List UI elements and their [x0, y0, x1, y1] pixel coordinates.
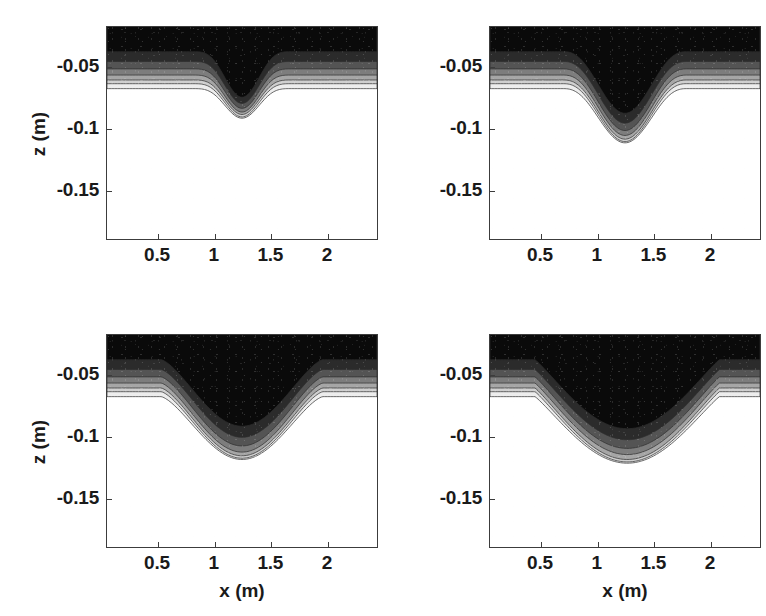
x-tick-2 — [328, 234, 329, 239]
x-tick-0.5 — [158, 234, 159, 239]
x-tick-label: 2 — [322, 552, 332, 574]
x-tick-label: 1.5 — [257, 552, 283, 574]
y-tick-label: -0.05 — [440, 363, 482, 385]
x-tick-1 — [598, 542, 599, 547]
x-tick-label: 0.5 — [527, 552, 553, 574]
panel-bottom-left: 0.511.52-0.05-0.1-0.15x (m)z (m) — [0, 308, 383, 616]
y-tick--0.1 — [490, 437, 495, 438]
panel-top-left: 0.511.52-0.05-0.1-0.15z (m) — [0, 0, 383, 308]
y-tick-label: -0.15 — [440, 179, 482, 201]
x-tick-label: 1.5 — [257, 244, 283, 266]
contour-plot-top-left — [107, 27, 377, 239]
x-tick-label: 2 — [705, 244, 715, 266]
plot-area-top-right — [490, 27, 760, 239]
x-tick-1.5 — [654, 234, 655, 239]
x-tick-label: 1.5 — [640, 244, 666, 266]
y-tick-label: -0.15 — [440, 487, 482, 509]
y-tick--0.15 — [490, 499, 495, 500]
x-tick-label: 0.5 — [144, 244, 170, 266]
x-tick-label: 1 — [209, 244, 219, 266]
y-axis-label: z (m) — [28, 397, 50, 487]
x-tick-1 — [215, 542, 216, 547]
x-tick-1 — [215, 234, 216, 239]
y-tick--0.1 — [490, 129, 495, 130]
y-tick-label: -0.05 — [57, 55, 99, 77]
x-tick-1.5 — [654, 542, 655, 547]
y-tick--0.15 — [490, 191, 495, 192]
y-tick-label: -0.15 — [57, 179, 99, 201]
contour-plot-bottom-left — [107, 335, 377, 547]
x-tick-2 — [711, 234, 712, 239]
contour-plot-top-right — [490, 27, 760, 239]
axes-bottom-right — [489, 334, 761, 548]
x-tick-label: 1.5 — [640, 552, 666, 574]
x-tick-2 — [328, 542, 329, 547]
y-tick-label: -0.1 — [67, 425, 99, 447]
x-tick-label: 0.5 — [144, 552, 170, 574]
x-tick-label: 2 — [322, 244, 332, 266]
x-axis-label: x (m) — [489, 580, 761, 602]
axes-top-left — [106, 26, 378, 240]
y-tick-label: -0.1 — [450, 425, 482, 447]
y-tick--0.05 — [107, 67, 112, 68]
y-tick-label: -0.15 — [57, 487, 99, 509]
plot-area-bottom-right — [490, 335, 760, 547]
y-tick-label: -0.1 — [67, 117, 99, 139]
x-tick-label: 1 — [592, 552, 602, 574]
y-tick--0.05 — [490, 375, 495, 376]
y-tick--0.15 — [107, 499, 112, 500]
panel-bottom-right: 0.511.52-0.05-0.1-0.15x (m) — [383, 308, 766, 616]
plot-area-top-left — [107, 27, 377, 239]
panel-top-right: 0.511.52-0.05-0.1-0.15 — [383, 0, 766, 308]
figure-contour-grid: 0.511.52-0.05-0.1-0.15z (m) 0.511.52-0.0… — [0, 0, 766, 616]
y-tick--0.05 — [490, 67, 495, 68]
x-tick-1.5 — [271, 542, 272, 547]
y-tick-label: -0.1 — [450, 117, 482, 139]
x-tick-1.5 — [271, 234, 272, 239]
axes-bottom-left — [106, 334, 378, 548]
plot-area-bottom-left — [107, 335, 377, 547]
x-tick-2 — [711, 542, 712, 547]
x-axis-label: x (m) — [106, 580, 378, 602]
x-tick-0.5 — [541, 542, 542, 547]
x-tick-1 — [598, 234, 599, 239]
y-axis-label: z (m) — [28, 89, 50, 179]
y-tick-label: -0.05 — [57, 363, 99, 385]
x-tick-label: 0.5 — [527, 244, 553, 266]
x-tick-0.5 — [158, 542, 159, 547]
x-tick-0.5 — [541, 234, 542, 239]
y-tick--0.1 — [107, 129, 112, 130]
x-tick-label: 1 — [209, 552, 219, 574]
axes-top-right — [489, 26, 761, 240]
contour-plot-bottom-right — [490, 335, 760, 547]
y-tick--0.1 — [107, 437, 112, 438]
x-tick-label: 2 — [705, 552, 715, 574]
y-tick-label: -0.05 — [440, 55, 482, 77]
x-tick-label: 1 — [592, 244, 602, 266]
y-tick--0.15 — [107, 191, 112, 192]
y-tick--0.05 — [107, 375, 112, 376]
